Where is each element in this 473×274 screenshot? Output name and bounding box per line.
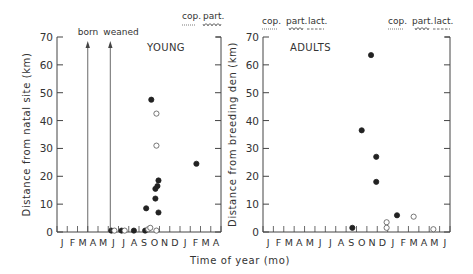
x-tick-label: D <box>379 237 386 248</box>
data-point-filled <box>374 154 379 159</box>
data-point-filled <box>131 228 136 233</box>
x-tick-label: M <box>79 237 87 248</box>
y-tick-label: 40 <box>40 115 53 127</box>
data-point-filled <box>156 210 161 215</box>
y-tick-label: 70 <box>246 31 259 43</box>
data-point-filled <box>374 179 379 184</box>
legend-zigzag-line <box>415 28 429 30</box>
data-point-filled <box>394 213 399 218</box>
x-tick-label: A <box>90 237 97 248</box>
legend-part-label: part. <box>286 16 307 26</box>
data-point-filled <box>156 178 161 183</box>
x-tick-label: J <box>442 237 446 248</box>
y-axis-label: Distance from breeding den (km) <box>227 42 238 227</box>
x-tick-label: J <box>328 237 332 248</box>
data-point-open <box>384 225 389 230</box>
y-tick-label: 60 <box>246 59 259 71</box>
legend-zigzag-line <box>203 24 221 26</box>
x-tick-label: F <box>401 237 406 248</box>
x-tick-label: J <box>266 237 270 248</box>
data-point-open <box>384 220 389 225</box>
legend-cop-label: cop. <box>262 16 281 26</box>
x-tick-label: M <box>99 237 107 248</box>
x-tick-label: M <box>410 237 418 248</box>
data-point-open <box>148 225 153 230</box>
y-tick-label: 20 <box>246 170 259 182</box>
x-tick-label: F <box>70 237 75 248</box>
x-tick-label: J <box>318 237 322 248</box>
data-point-filled <box>350 225 355 230</box>
y-tick-label: 10 <box>246 198 259 210</box>
data-point-filled <box>144 206 149 211</box>
x-tick-label: A <box>131 237 138 248</box>
x-tick-label: F <box>276 237 281 248</box>
y-tick-label: 0 <box>252 226 259 238</box>
x-tick-label: A <box>213 237 220 248</box>
y-tick-label: 60 <box>40 59 53 71</box>
y-tick-label: 20 <box>40 170 53 182</box>
legend-cop-label: cop. <box>388 16 407 26</box>
x-tick-label: S <box>141 237 147 248</box>
y-tick-label: 70 <box>40 31 53 43</box>
data-point-open <box>154 111 159 116</box>
y-tick-label: 30 <box>40 142 53 154</box>
x-tick-label: A <box>338 237 345 248</box>
legend-part-label: part. <box>203 11 224 21</box>
x-tick-label: M <box>285 237 293 248</box>
data-point-open <box>431 227 436 232</box>
data-point-open <box>411 214 416 219</box>
data-point-filled <box>359 128 364 133</box>
panel-title: ADULTS <box>290 42 331 53</box>
x-tick-label: O <box>151 237 158 248</box>
adults-panel: 010203040506070JFMAMJJASONDJFMAMJDistanc… <box>227 16 453 248</box>
legend-cop-label: cop. <box>182 11 201 21</box>
legend-lact-label: lact. <box>434 16 453 26</box>
x-tick-label: J <box>390 237 394 248</box>
x-tick-label: J <box>60 237 64 248</box>
data-point-open <box>154 143 159 148</box>
x-tick-label: M <box>430 237 438 248</box>
x-tick-label: M <box>306 237 314 248</box>
x-tick-label: N <box>161 237 168 248</box>
data-point-open <box>112 228 117 233</box>
x-tick-label: S <box>348 237 354 248</box>
legend-part-label: part. <box>412 16 433 26</box>
x-tick-label: D <box>171 237 178 248</box>
annotation-label: weaned <box>103 27 138 37</box>
y-tick-label: 0 <box>46 226 53 238</box>
shared-x-axis-label: Time of year (mo) <box>189 255 290 266</box>
data-point-filled <box>155 183 160 188</box>
x-tick-label: A <box>296 237 303 248</box>
legend-zigzag-line <box>289 28 303 30</box>
legend-lact-label: lact. <box>308 16 327 26</box>
x-tick-label: J <box>111 237 115 248</box>
y-tick-label: 10 <box>40 198 53 210</box>
y-tick-label: 30 <box>246 142 259 154</box>
x-tick-label: F <box>193 237 198 248</box>
x-tick-label: A <box>421 237 428 248</box>
x-tick-label: O <box>358 237 365 248</box>
x-tick-label: M <box>202 237 210 248</box>
data-point-open <box>122 228 127 233</box>
data-point-filled <box>153 196 158 201</box>
arrow-head-icon <box>86 41 90 48</box>
data-point-open <box>154 228 159 233</box>
data-point-filled <box>194 161 199 166</box>
panel-title: YOUNG <box>146 42 185 53</box>
x-tick-label: J <box>121 237 125 248</box>
data-point-filled <box>149 97 154 102</box>
x-tick-label: J <box>183 237 187 248</box>
x-tick-label: N <box>369 237 376 248</box>
young-panel: 010203040506070JFMAMJJASONDJFMADistance … <box>21 11 224 248</box>
annotation-label: born <box>78 27 98 37</box>
y-tick-label: 50 <box>40 87 53 99</box>
y-axis-label: Distance from natal site (km) <box>21 53 32 217</box>
arrow-head-icon <box>108 41 112 48</box>
data-point-filled <box>368 53 373 58</box>
y-tick-label: 50 <box>246 87 259 99</box>
chart-figure: 010203040506070JFMAMJJASONDJFMADistance … <box>0 0 473 274</box>
y-tick-label: 40 <box>246 115 259 127</box>
